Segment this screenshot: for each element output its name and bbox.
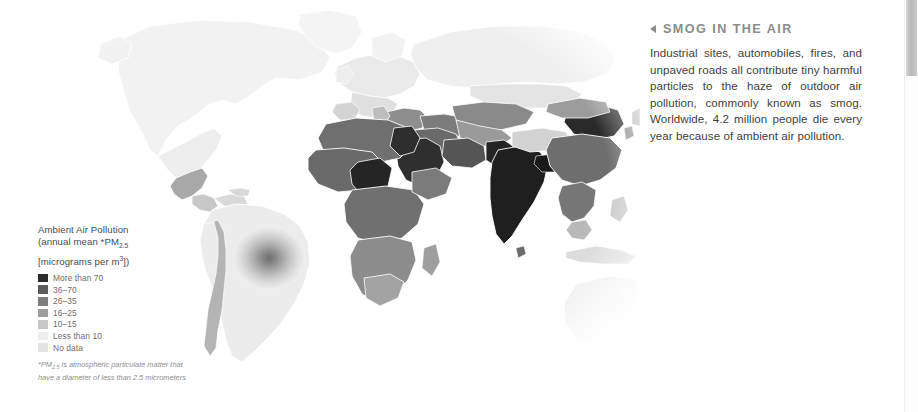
legend-item-less-than-10[interactable]: Less than 10 bbox=[38, 330, 216, 342]
legend-swatch bbox=[38, 332, 48, 341]
legend-item-16-25[interactable]: 16–25 bbox=[38, 307, 216, 319]
legend-title-line3-pre: [micrograms per m bbox=[38, 256, 120, 267]
legend-title-line1: Ambient Air Pollution bbox=[38, 224, 129, 235]
article-title: SMOG IN THE AIR bbox=[663, 22, 793, 36]
legend-item-label: 26–35 bbox=[53, 296, 77, 306]
legend-item-label: Less than 10 bbox=[53, 331, 102, 341]
legend-entries: More than 70 36–70 26–35 16–25 10–15 Les… bbox=[38, 272, 216, 353]
legend-swatch bbox=[38, 297, 48, 306]
legend-title-line2-pre: (annual mean *PM bbox=[38, 236, 119, 247]
legend-item-more-than-70[interactable]: More than 70 bbox=[38, 272, 216, 284]
legend-item-label: 10–15 bbox=[53, 319, 77, 329]
map-legend: Ambient Air Pollution (annual mean *PM2.… bbox=[38, 224, 216, 382]
legend-title: Ambient Air Pollution (annual mean *PM2.… bbox=[38, 224, 216, 268]
legend-footnote: *PM2.5 is atmospheric particulate matter… bbox=[38, 360, 188, 382]
legend-item-label: 36–70 bbox=[53, 285, 77, 295]
legend-swatch bbox=[38, 274, 48, 283]
left-triangle-icon bbox=[650, 25, 656, 33]
legend-title-line3-post: ]) bbox=[123, 256, 129, 267]
article-header: SMOG IN THE AIR bbox=[650, 22, 862, 36]
legend-title-line2-sub: 2.5 bbox=[119, 242, 128, 249]
legend-item-label: More than 70 bbox=[53, 273, 103, 283]
legend-item-label: No data bbox=[53, 343, 83, 353]
vertical-scrollbar-track[interactable] bbox=[904, 0, 918, 412]
legend-footnote-post: is atmospheric particulate matter that h… bbox=[38, 360, 186, 382]
legend-swatch bbox=[38, 285, 48, 294]
legend-item-36-70[interactable]: 36–70 bbox=[38, 284, 216, 296]
article-sidebar: SMOG IN THE AIR Industrial sites, automo… bbox=[650, 22, 862, 144]
article-body: Industrial sites, automobiles, fires, an… bbox=[650, 45, 862, 144]
legend-swatch bbox=[38, 343, 48, 352]
legend-item-26-35[interactable]: 26–35 bbox=[38, 296, 216, 308]
legend-item-no-data[interactable]: No data bbox=[38, 342, 216, 354]
legend-swatch bbox=[38, 309, 48, 318]
page-canvas: Ambient Air Pollution (annual mean *PM2.… bbox=[0, 0, 918, 412]
legend-item-10-15[interactable]: 10–15 bbox=[38, 319, 216, 331]
vertical-scrollbar-thumb[interactable] bbox=[906, 0, 917, 76]
legend-item-label: 16–25 bbox=[53, 308, 77, 318]
legend-swatch bbox=[38, 320, 48, 329]
legend-footnote-pre: *PM bbox=[38, 360, 52, 369]
